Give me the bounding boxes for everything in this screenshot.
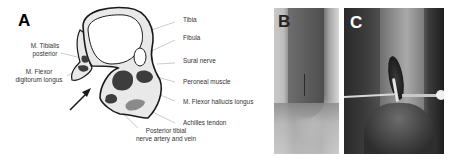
- panel-a-cross-section-diagram: A Tibia Fibula Sural nerve Peroneal musc…: [0, 0, 270, 159]
- leg-skin: [380, 8, 424, 118]
- label-flexor-digitorum-line1: M. Flexor: [10, 68, 68, 76]
- label-sural-nerve: Sural nerve: [183, 57, 216, 65]
- panel-c-letter: C: [350, 14, 362, 31]
- panel-b-letter: B: [278, 13, 290, 30]
- label-tibia: Tibia: [183, 16, 197, 24]
- label-peroneal-muscle: Peroneal muscle: [183, 78, 231, 86]
- label-flexor-hallucis: M. Flexor hallucis longus: [183, 98, 253, 106]
- label-tibialis-line2: posterior: [22, 50, 68, 58]
- label-posterior-tibial-line2: nerve artery and vein: [126, 135, 206, 143]
- label-flexor-digitorum-line2: digitorum longus: [10, 76, 68, 84]
- label-fibula: Fibula: [183, 34, 200, 42]
- label-posterior-tibial: Posterior tibial nerve artery and vein: [126, 127, 206, 143]
- incision-mark: [304, 74, 305, 96]
- posterior-tibial-bundle: [105, 94, 117, 104]
- fibula-shape: [134, 48, 146, 66]
- panel-b-photo: B: [274, 8, 339, 154]
- label-posterior-tibial-line1: Posterior tibial: [126, 127, 206, 135]
- heel-area: [274, 103, 339, 154]
- retractor-tip: [436, 90, 444, 100]
- panel-a-letter: A: [18, 12, 30, 29]
- heel-area: [364, 103, 434, 154]
- retractor-right: [402, 94, 440, 97]
- leg-skin: [288, 8, 324, 118]
- label-achilles-tendon: Achilles tendon: [183, 119, 226, 127]
- panel-c-photo: C: [344, 8, 444, 154]
- label-tibialis-line1: M. Tibialis: [22, 42, 68, 50]
- label-tibialis-posterior: M. Tibialis posterior: [22, 42, 68, 58]
- label-flexor-digitorum: M. Flexor digitorum longus: [10, 68, 68, 84]
